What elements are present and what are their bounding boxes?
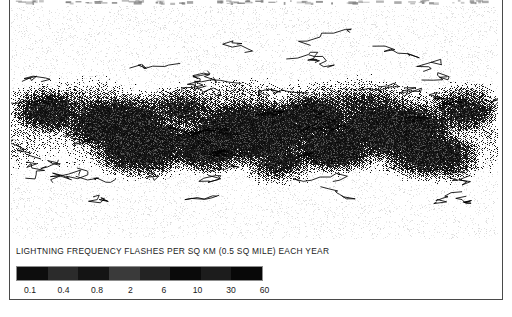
colorbar-segment-2: [78, 267, 109, 280]
colorbar-tick-3: 2: [128, 285, 133, 295]
colorbar-tick-0: 0.1: [24, 285, 36, 295]
colorbar-segment-5: [170, 267, 201, 280]
clipped-top-strip: [11, 0, 501, 5]
colorbar-segment-4: [140, 267, 171, 280]
colorbar-tick-5: 10: [193, 285, 203, 295]
legend-colorbar: [16, 266, 263, 281]
colorbar-tick-6: 30: [226, 285, 236, 295]
colorbar-segment-6: [201, 267, 232, 280]
colorbar-tick-7: 60: [260, 285, 270, 295]
colorbar-segment-0: [17, 267, 48, 280]
legend: LIGHTNING FREQUENCY FLASHES PER SQ KM (0…: [16, 246, 486, 257]
figure-page: LIGHTNING FREQUENCY FLASHES PER SQ KM (0…: [0, 0, 512, 317]
colorbar-tick-1: 0.4: [58, 285, 70, 295]
colorbar-segment-1: [48, 267, 79, 280]
colorbar-tick-4: 6: [162, 285, 167, 295]
colorbar-segment-3: [109, 267, 140, 280]
legend-title: LIGHTNING FREQUENCY FLASHES PER SQ KM (0…: [16, 246, 486, 257]
legend-tick-labels: 0.10.40.826103060: [16, 285, 286, 298]
lightning-map: [11, 6, 498, 239]
lightning-map-raster: [11, 6, 498, 239]
colorbar-tick-2: 0.8: [91, 285, 103, 295]
colorbar-segment-7: [231, 267, 262, 280]
